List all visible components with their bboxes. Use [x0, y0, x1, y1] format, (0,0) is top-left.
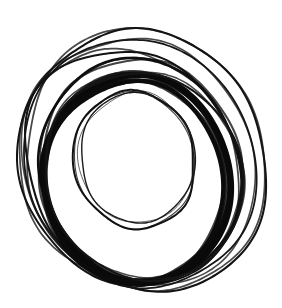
circles-sketch: [0, 0, 282, 308]
artboard: [0, 0, 282, 308]
